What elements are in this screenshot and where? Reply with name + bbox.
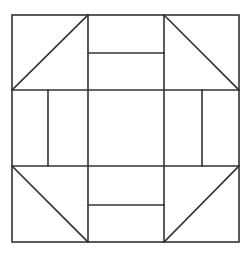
diagonal-top-left (12, 15, 88, 90)
diagonal-top-right (164, 15, 239, 90)
diagonal-bottom-left (12, 166, 88, 242)
outer-square (12, 15, 239, 242)
quilt-block-diagram (0, 0, 252, 256)
diagonal-bottom-right (164, 166, 239, 242)
